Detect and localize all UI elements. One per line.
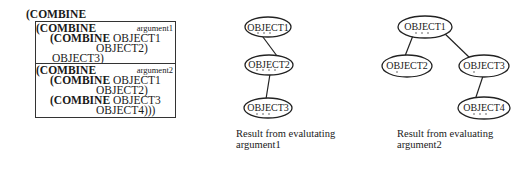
label-tree1-object2: OBJECT2	[248, 59, 290, 70]
tree1-caption-line2: argument1	[236, 139, 335, 150]
tree2-caption-line1: Result from evaluating	[397, 128, 493, 139]
tree2-caption-line2: argument2	[397, 139, 493, 150]
label-tree2-object1: OBJECT1	[404, 21, 446, 32]
edge-m1-m3	[442, 31, 471, 59]
tree1-caption: Result from evalutating argument1	[236, 128, 335, 150]
label-tree1-object3: OBJECT3	[247, 102, 289, 113]
label-tree1-object1: OBJECT1	[247, 22, 289, 33]
tree2-caption: Result from evaluating argument2	[397, 128, 493, 150]
label-tree2-object4: OBJECT4	[463, 102, 505, 113]
edge-n2-n3	[266, 74, 270, 99]
label-tree2-object3: OBJECT3	[463, 60, 505, 71]
label-tree2-object2: OBJECT2	[386, 60, 428, 71]
tree1-caption-line1: Result from evalutating	[236, 128, 335, 139]
